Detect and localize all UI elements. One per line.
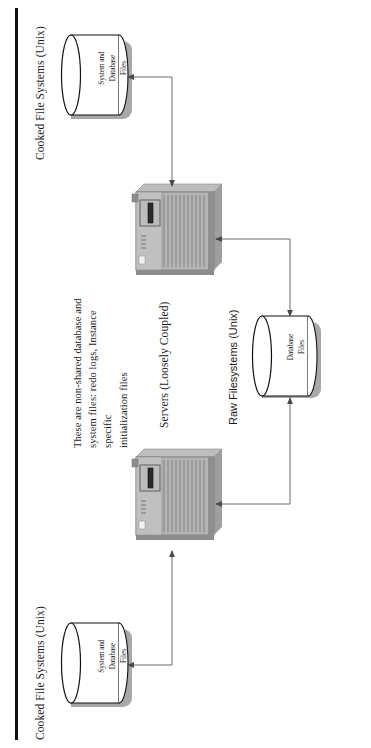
cylinder-raw-label: Database Files <box>286 314 308 380</box>
cyl-line-1: System and <box>98 51 106 84</box>
cylinder-raw-database-files: Database Files <box>248 308 326 404</box>
label-cooked-file-systems-bottom: Cooked File Systems (Unix) <box>34 606 46 740</box>
cylinder-cooked-bottom-label: System and Database Files <box>97 621 129 691</box>
label-servers-loosely-coupled: Servers (Loosely Coupled) <box>158 302 170 428</box>
cyl-line-3: Files <box>120 61 128 75</box>
label-cooked-file-systems-top: Cooked File Systems (Unix) <box>34 26 46 160</box>
note-line-2: system files: redo logs, Instance specif… <box>85 283 115 448</box>
note-line-1: These are non-shared database and <box>70 283 85 448</box>
cyl-line-2: Database <box>109 55 117 81</box>
cyl-line-2: Database <box>109 643 117 669</box>
cylinder-cooked-bottom: System and Database Files <box>57 613 137 713</box>
left-border-rule <box>15 8 18 740</box>
server-node-2 <box>126 443 230 547</box>
note-text-block: These are non-shared database and system… <box>70 283 131 448</box>
cyl-line-1: Database <box>287 334 295 360</box>
diagram-canvas: Cooked File Systems (Unix) System and Da… <box>0 0 371 748</box>
server-node-1 <box>126 178 230 282</box>
cyl-line-2: Files <box>298 340 306 354</box>
cylinder-cooked-top-label: System and Database Files <box>97 33 129 103</box>
note-line-3: initialization files <box>116 283 131 448</box>
cyl-line-1: System and <box>98 639 106 672</box>
cylinder-cooked-top: System and Database Files <box>57 25 137 125</box>
cyl-line-3: Files <box>120 649 128 663</box>
label-raw-filesystems: Raw Filesystems (Unix) <box>227 309 239 425</box>
